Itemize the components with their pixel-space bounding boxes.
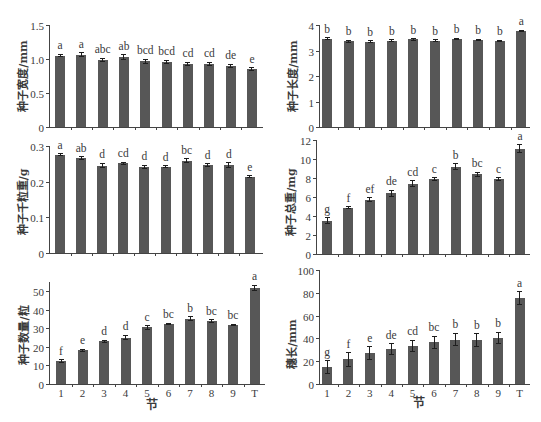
y-tick-label: 40	[33, 305, 45, 317]
y-axis-label: 种子宽度/mm	[16, 40, 30, 113]
y-tick-label: 10	[300, 154, 312, 166]
significance-letter: bc	[206, 305, 217, 317]
bar	[228, 325, 238, 384]
y-tick-label: 50	[33, 286, 45, 298]
significance-letter: b	[475, 24, 481, 36]
bar	[408, 184, 418, 254]
bar	[185, 319, 195, 384]
x-axis-label: 节	[146, 397, 158, 412]
bar	[97, 166, 107, 253]
significance-letter: b	[453, 318, 459, 330]
bar	[226, 66, 236, 127]
x-tick-label: 6	[431, 387, 437, 399]
y-tick-label: 0.5	[30, 88, 44, 100]
bar	[516, 31, 526, 127]
significance-letter: a	[517, 277, 522, 289]
significance-letter: cd	[407, 166, 418, 178]
significance-letter: g	[324, 203, 330, 216]
bar	[182, 161, 192, 253]
x-tick-label: 3	[367, 387, 373, 399]
y-axis-label: 种子长度/mm	[286, 40, 300, 113]
significance-letter: cd	[407, 325, 418, 337]
bar	[76, 55, 86, 127]
y-tick-label: 0	[39, 248, 45, 260]
seed-length-chart: 01234bbbbbbbbba种子长度/mm	[286, 15, 530, 133]
significance-letter: a	[517, 130, 522, 142]
significance-letter: b	[453, 149, 459, 161]
x-tick-label: 1	[58, 387, 64, 399]
bar	[452, 39, 462, 127]
y-axis-label: 种子总重/mg	[284, 168, 298, 237]
significance-letter: e	[247, 161, 252, 173]
y-tick-label: 2	[306, 230, 312, 242]
significance-letter: c	[496, 163, 501, 175]
y-tick-label: 1.5	[30, 20, 44, 32]
bar	[344, 41, 354, 127]
bar	[494, 179, 504, 254]
significance-letter: f	[346, 338, 350, 350]
y-tick-label: 6	[306, 192, 312, 204]
significance-letter: f	[347, 192, 351, 204]
x-tick-label: 1	[324, 387, 330, 399]
y-tick-label: 0	[309, 122, 315, 134]
y-tick-label: 30	[33, 323, 45, 335]
bar	[142, 327, 152, 384]
x-tick-label: 9	[230, 387, 236, 399]
y-tick-label: 2	[309, 71, 315, 83]
bar	[247, 69, 257, 127]
significance-letter: bc	[472, 157, 483, 169]
significance-letter: cd	[183, 47, 194, 59]
significance-letter: bc	[181, 144, 192, 156]
x-tick-label: 2	[80, 387, 86, 399]
seed-width-chart: 00.51.01.5aaabcabbcdbcdcdcddee种子宽度/mm	[16, 20, 263, 134]
bar	[322, 39, 332, 127]
significance-letter: a	[252, 270, 257, 282]
significance-letter: a	[57, 139, 62, 151]
significance-letter: bcd	[137, 44, 154, 56]
x-tick-label: 8	[474, 387, 480, 399]
bar	[162, 62, 172, 127]
y-tick-label: 0	[306, 249, 312, 261]
significance-letter: d	[142, 150, 148, 162]
significance-letter: ab	[119, 40, 130, 52]
bar	[164, 324, 174, 384]
bar	[472, 174, 482, 254]
bar	[408, 39, 418, 127]
x-tick-label: 2	[346, 387, 352, 399]
thousand-seed-weight-chart: 00.10.20.3aabdcdddbcdde种子千粒重/g	[16, 139, 263, 260]
significance-letter: a	[519, 15, 524, 27]
bar	[386, 193, 396, 254]
bar	[140, 61, 150, 127]
significance-letter: c	[432, 163, 437, 175]
bar	[99, 341, 109, 384]
significance-letter: g	[324, 346, 330, 359]
bar	[56, 361, 66, 384]
x-tick-label: 6	[166, 387, 172, 399]
bar	[121, 338, 131, 384]
y-tick-label: 0.3	[30, 141, 44, 153]
bar	[365, 200, 375, 254]
significance-letter: b	[187, 302, 193, 314]
y-tick-label: 12	[300, 135, 311, 147]
y-tick-label: 4	[306, 211, 312, 223]
error-bar	[497, 40, 502, 42]
y-tick-label: 1	[309, 97, 315, 109]
bar	[55, 155, 65, 253]
significance-letter: d	[205, 149, 211, 161]
significance-letter: b	[497, 25, 503, 37]
error-bar	[121, 162, 126, 164]
bar	[493, 338, 503, 384]
x-axis-label: 节	[413, 395, 425, 410]
significance-letter: bc	[228, 309, 239, 321]
bar	[365, 42, 375, 127]
x-tick-label: 3	[101, 387, 107, 399]
x-tick-label: T	[516, 387, 523, 399]
significance-letter: b	[324, 23, 330, 35]
significance-letter: ef	[365, 183, 374, 195]
significance-letter: d	[226, 148, 232, 160]
bar	[78, 350, 88, 384]
bar	[119, 57, 129, 127]
significance-letter: d	[163, 151, 169, 163]
x-tick-label: 8	[209, 387, 215, 399]
significance-letter: a	[79, 38, 84, 50]
